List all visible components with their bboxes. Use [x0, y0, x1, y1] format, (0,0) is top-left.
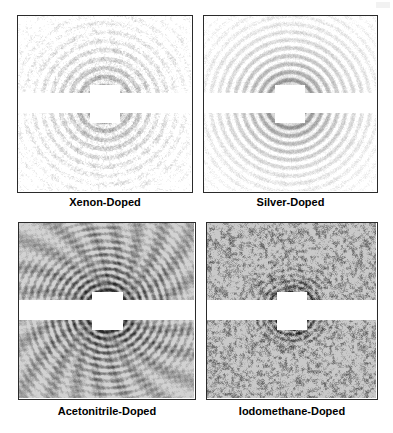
- beam-stop-horizontal-bar: [269, 304, 316, 319]
- diffraction-panel-acetonitrile: [18, 222, 196, 400]
- panel-caption-silver: Silver-Doped: [183, 196, 393, 208]
- beam-stop-silver: [204, 16, 376, 191]
- scan-artifact: [376, 2, 390, 8]
- panel-cell-iodomethane: [206, 222, 378, 400]
- beam-stop-acetonitrile: [19, 223, 194, 398]
- beam-stop-horizontal-bar: [83, 304, 131, 319]
- beam-stop-xenon: [18, 16, 191, 191]
- panel-caption-acetonitrile: Acetonitrile-Doped: [0, 405, 216, 417]
- diffraction-panel-xenon: [17, 15, 193, 193]
- panel-caption-xenon: Xenon-Doped: [0, 196, 213, 208]
- diffraction-panel-silver: [203, 15, 378, 193]
- panel-cell-acetonitrile: [18, 222, 196, 400]
- beam-stop-iodomethane: [207, 223, 376, 398]
- panel-cell-silver: [203, 15, 378, 193]
- diffraction-figure: Xenon-DopedSilver-DopedAcetonitrile-Dope…: [0, 0, 393, 433]
- beam-stop-horizontal-bar: [267, 97, 314, 112]
- beam-stop-horizontal-bar: [82, 97, 129, 112]
- panel-cell-xenon: [17, 15, 193, 193]
- diffraction-panel-iodomethane: [206, 222, 378, 400]
- panel-caption-iodomethane: Iodomethane-Doped: [186, 405, 393, 417]
